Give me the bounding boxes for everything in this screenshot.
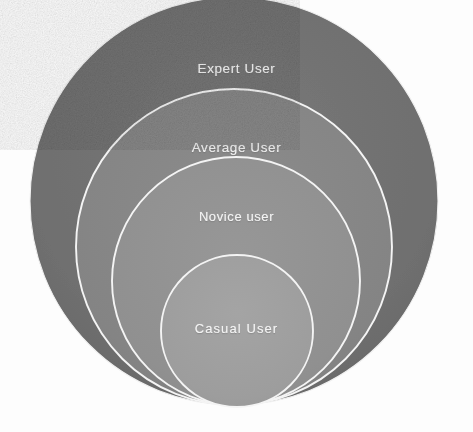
label-expert-user: Expert User bbox=[0, 61, 473, 76]
label-novice-user-text: Novice user bbox=[199, 209, 274, 224]
label-average-user: Average User bbox=[0, 140, 473, 155]
label-expert-user-text: Expert User bbox=[198, 61, 276, 76]
diagram-canvas: Expert User Average User Novice user Cas… bbox=[0, 0, 473, 432]
label-casual-user: Casual User bbox=[0, 321, 473, 336]
label-novice-user: Novice user bbox=[0, 209, 473, 224]
label-casual-user-text: Casual User bbox=[195, 321, 279, 336]
label-average-user-text: Average User bbox=[192, 140, 282, 155]
